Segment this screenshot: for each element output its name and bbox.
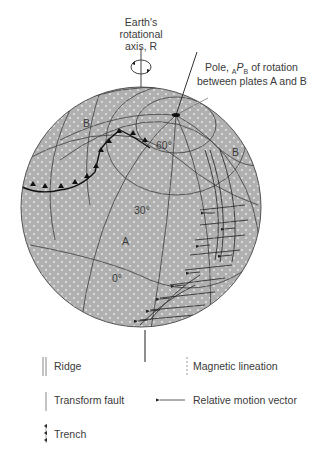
latitude-0-label: 0° xyxy=(112,272,122,284)
plate-b-right-label: B xyxy=(232,146,239,158)
globe xyxy=(21,52,262,335)
pole-label-pre: Pole, xyxy=(205,61,232,73)
axis-label-line2: rotational xyxy=(111,28,171,40)
legend-relative-motion-vector: Relative motion vector xyxy=(193,394,297,406)
axis-label: Earth's rotational axis, R xyxy=(111,16,171,52)
plate-a-label: A xyxy=(122,235,129,247)
legend-ridge: Ridge xyxy=(54,360,81,372)
pole-label-post: of rotation xyxy=(248,61,298,73)
legend-trench: Trench xyxy=(54,428,86,440)
pole-p: P xyxy=(237,61,244,73)
latitude-60-label: 60° xyxy=(156,139,172,151)
latitude-30-label: 30° xyxy=(134,204,150,216)
pole-label-line2: between plates A and B xyxy=(197,75,307,87)
axis-label-line3: axis, R xyxy=(111,40,171,52)
legend-magnetic-lineation: Magnetic lineation xyxy=(193,360,278,372)
legend-transform-fault: Transform fault xyxy=(54,394,124,406)
pole-marker-icon xyxy=(172,113,180,117)
axis-label-line1: Earth's xyxy=(111,16,171,28)
plate-b-left-label: B xyxy=(83,117,90,129)
